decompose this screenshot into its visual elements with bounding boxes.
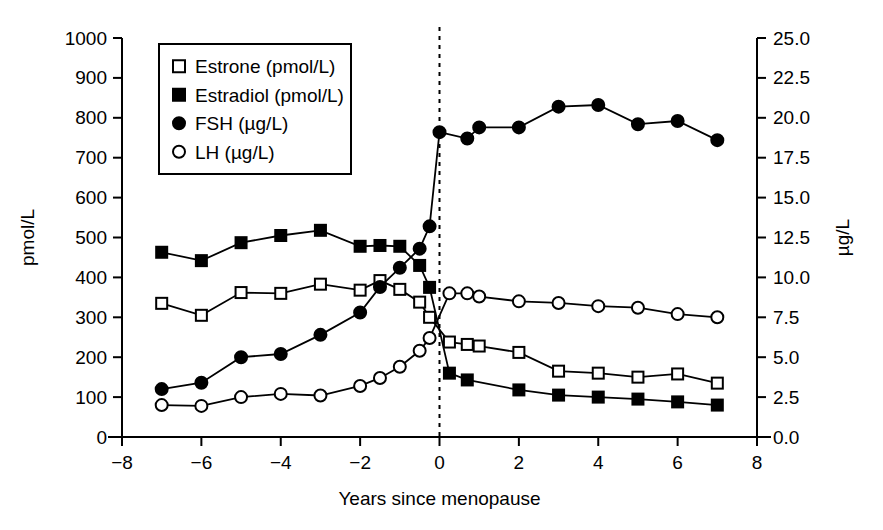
right-axis-tick-label: 0.0 — [773, 427, 799, 448]
data-point-filled-circle — [473, 121, 485, 133]
data-point-open-circle — [354, 380, 366, 392]
data-point-open-square — [513, 347, 524, 358]
data-point-open-square — [275, 288, 286, 299]
data-point-open-circle — [553, 297, 565, 309]
data-point-open-circle — [314, 390, 326, 402]
left-axis-tick-label: 900 — [75, 67, 107, 88]
data-point-filled-square — [315, 225, 326, 236]
data-point-open-circle — [672, 308, 684, 320]
right-axis-tick-label: 10.0 — [773, 267, 810, 288]
data-point-open-square — [712, 378, 723, 389]
data-point-open-circle — [414, 345, 426, 357]
left-axis-tick-label: 500 — [75, 227, 107, 248]
data-point-filled-square — [374, 240, 385, 251]
data-point-open-circle — [424, 332, 436, 344]
x-axis-tick-label: 8 — [752, 452, 763, 473]
data-point-filled-square — [424, 282, 435, 293]
data-point-filled-circle — [592, 99, 604, 111]
data-point-filled-circle — [354, 307, 366, 319]
data-point-filled-square — [156, 247, 167, 258]
data-point-filled-circle — [374, 281, 386, 293]
data-point-filled-square — [462, 374, 473, 385]
data-point-open-square — [315, 279, 326, 290]
data-point-filled-circle — [513, 121, 525, 133]
chart-background — [0, 0, 883, 530]
data-point-open-square — [593, 368, 604, 379]
x-axis-tick-label: −8 — [111, 452, 133, 473]
legend-item-label: FSH (µg/L) — [195, 113, 288, 134]
legend-open-square-icon — [173, 60, 185, 72]
right-axis-tick-label: 15.0 — [773, 187, 810, 208]
data-point-open-square — [414, 297, 425, 308]
data-point-filled-circle — [195, 377, 207, 389]
data-point-open-circle — [711, 311, 723, 323]
secondary-y-axis-title: µg/L — [832, 219, 853, 256]
x-axis-tick-label: 2 — [514, 452, 525, 473]
left-axis-tick-label: 100 — [75, 387, 107, 408]
left-axis-tick-label: 200 — [75, 347, 107, 368]
data-point-open-circle — [374, 372, 386, 384]
data-point-filled-square — [275, 230, 286, 241]
data-point-filled-circle — [632, 118, 644, 130]
right-axis-tick-label: 25.0 — [773, 28, 810, 49]
data-point-open-square — [444, 337, 455, 348]
data-point-filled-square — [513, 384, 524, 395]
data-point-open-square — [553, 366, 564, 377]
data-point-open-circle — [632, 302, 644, 314]
hormone-levels-line-chart: 010020030040050060070080090010000.02.55.… — [0, 0, 883, 530]
data-point-open-circle — [156, 399, 168, 411]
left-axis-tick-label: 800 — [75, 107, 107, 128]
right-axis-tick-label: 22.5 — [773, 67, 810, 88]
data-point-open-circle — [513, 295, 525, 307]
data-point-open-square — [474, 341, 485, 352]
data-point-filled-circle — [434, 126, 446, 138]
data-point-filled-square — [414, 260, 425, 271]
right-axis-tick-label: 17.5 — [773, 147, 810, 168]
right-axis-tick-label: 5.0 — [773, 347, 799, 368]
data-point-filled-square — [236, 237, 247, 248]
left-axis-tick-label: 700 — [75, 147, 107, 168]
right-axis-tick-label: 2.5 — [773, 387, 799, 408]
right-axis-tick-label: 7.5 — [773, 307, 799, 328]
data-point-filled-circle — [314, 329, 326, 341]
data-point-filled-square — [712, 400, 723, 411]
data-point-filled-circle — [672, 115, 684, 127]
data-point-open-circle — [443, 287, 455, 299]
data-point-open-square — [424, 312, 435, 323]
x-axis-tick-label: 4 — [593, 452, 604, 473]
legend-item-label: Estradiol (pmol/L) — [195, 85, 344, 106]
data-point-filled-square — [444, 368, 455, 379]
legend-item-label: Estrone (pmol/L) — [195, 56, 335, 77]
x-axis-tick-label: −2 — [349, 452, 371, 473]
x-axis-tick-label: 6 — [672, 452, 683, 473]
chart-figure: 010020030040050060070080090010000.02.55.… — [0, 0, 883, 530]
data-point-open-square — [236, 287, 247, 298]
data-point-filled-circle — [235, 351, 247, 363]
data-point-open-circle — [394, 361, 406, 373]
legend-item: Estrone (pmol/L) — [173, 56, 335, 77]
data-point-filled-square — [593, 392, 604, 403]
left-axis-tick-label: 300 — [75, 307, 107, 328]
legend-item-label: LH (µg/L) — [195, 142, 275, 163]
data-point-open-circle — [235, 391, 247, 403]
data-point-filled-circle — [414, 243, 426, 255]
chart-legend: Estrone (pmol/L)Estradiol (pmol/L)FSH (µ… — [159, 44, 351, 174]
data-point-filled-square — [632, 394, 643, 405]
data-point-open-square — [394, 284, 405, 295]
x-axis-tick-label: 0 — [434, 452, 445, 473]
data-point-filled-circle — [553, 101, 565, 113]
data-point-open-square — [672, 368, 683, 379]
data-point-filled-square — [355, 241, 366, 252]
data-point-filled-circle — [275, 348, 287, 360]
legend-item: Estradiol (pmol/L) — [173, 85, 344, 106]
data-point-filled-square — [672, 396, 683, 407]
data-point-open-square — [632, 372, 643, 383]
x-axis-tick-label: −4 — [270, 452, 292, 473]
data-point-filled-circle — [424, 220, 436, 232]
right-axis-tick-label: 20.0 — [773, 107, 810, 128]
data-point-filled-square — [553, 390, 564, 401]
data-point-open-circle — [473, 291, 485, 303]
data-point-open-circle — [195, 400, 207, 412]
right-axis-tick-label: 12.5 — [773, 227, 810, 248]
legend-filled-square-icon — [173, 89, 185, 101]
